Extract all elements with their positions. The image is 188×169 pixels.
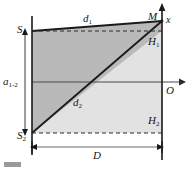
d-arrowhead-right <box>157 144 164 150</box>
label-s2: S2 <box>17 130 26 141</box>
label-o-origin: O <box>166 85 174 96</box>
physics-diagram: S1 S2 a1-2 d1 d2 M x H1 H2 O D <box>0 0 188 169</box>
label-s1: S1 <box>17 24 26 35</box>
label-d1: d1 <box>83 13 92 24</box>
d-arrowhead-left <box>30 144 37 150</box>
right-axis-arrowhead <box>159 3 166 11</box>
label-h2: H2 <box>148 115 159 126</box>
horizontal-axis-arrowhead <box>179 79 186 86</box>
label-h1: H1 <box>148 36 159 47</box>
diagram-canvas <box>0 0 188 169</box>
footer-marker <box>4 162 21 167</box>
label-a12: a1-2 <box>3 76 18 87</box>
label-x-axis: x <box>166 15 170 25</box>
label-d2: d2 <box>73 97 82 108</box>
label-big-d: D <box>93 150 101 161</box>
label-m: M <box>148 11 157 22</box>
m-point-marker <box>161 20 164 23</box>
